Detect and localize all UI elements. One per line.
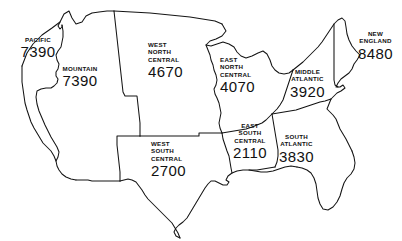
gulf-coast-outline <box>174 166 297 238</box>
east-north-central-east-south-central-border <box>222 114 272 133</box>
mountain-west-south-central-border <box>117 136 140 181</box>
east-south-central-west-border <box>222 133 232 173</box>
west-north-central-west-south-central-border <box>140 133 222 136</box>
middle-atlantic-new-england-border <box>334 24 338 87</box>
california-coast-outline <box>22 66 76 180</box>
pacific-mountain-border <box>36 25 63 161</box>
mid-atlantic-coast-outline <box>327 99 352 151</box>
mountain-west-north-central-border <box>114 11 140 136</box>
southern-border-outline <box>76 180 120 181</box>
east-south-central-south-atlantic-border <box>272 114 278 167</box>
west-north-central-east-north-central-border <box>206 45 222 133</box>
national-outline-west-coast <box>22 11 114 66</box>
east-north-central-middle-atlantic-border <box>272 70 293 114</box>
great-lakes-outline <box>206 24 293 74</box>
new-england-coast-outline <box>331 55 360 99</box>
east-south-central-gulf-border <box>249 167 275 170</box>
us-census-division-map: PACIFIC 7390 MOUNTAIN 7390 WEST NORTH CE… <box>0 0 402 241</box>
national-outline-northern-border <box>114 11 222 24</box>
texas-rio-grande-outline <box>120 179 180 238</box>
southeast-coast-outline <box>297 151 355 210</box>
lake-erie-ontario-outline <box>293 18 360 70</box>
map-outline-svg <box>0 0 402 241</box>
middle-atlantic-south-atlantic-border <box>272 99 331 114</box>
